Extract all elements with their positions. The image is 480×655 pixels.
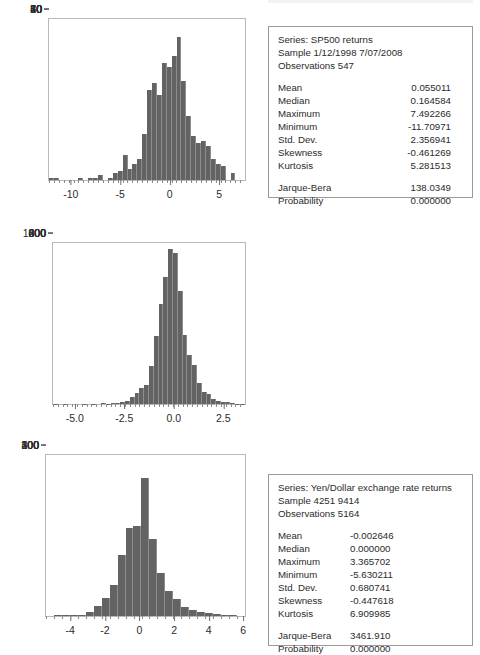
stats-row: Kurtosis5.281513	[278, 159, 463, 172]
x-axis-minor-tick	[216, 180, 217, 183]
x-axis-minor-tick	[176, 180, 177, 183]
stats-row-value: 2.356941	[350, 133, 463, 146]
stats-row-key: Skewness	[278, 146, 350, 159]
x-axis-tick-label: 6	[240, 616, 246, 636]
histogram-bar	[78, 615, 86, 616]
chart-sp500: 010203040506070 -10-505	[0, 8, 252, 223]
stats-row: Mean0.055011	[278, 81, 463, 94]
histogram-bar	[165, 591, 173, 616]
x-axis-minor-tick	[139, 404, 140, 407]
x-axis-minor-tick	[226, 404, 227, 407]
x-axis-minor-tick	[142, 616, 143, 619]
x-axis-minor-tick	[87, 404, 88, 407]
stats-row-value: -0.461269	[350, 146, 463, 159]
x-axis-minor-tick	[157, 616, 158, 619]
x-axis-minor-tick	[59, 180, 60, 183]
histogram-bar	[189, 610, 197, 616]
stats-observations-label: Observations 547	[278, 59, 463, 72]
x-axis-minor-tick	[58, 404, 59, 407]
bars-treasury-note	[46, 455, 245, 616]
stats-row: Jarque-Bera138.0349	[278, 181, 463, 194]
stats-row: Probability0.000000	[278, 194, 463, 207]
stats-spacer	[278, 72, 463, 81]
stats-row-value: 5.281513	[350, 159, 463, 172]
histogram-bar	[118, 555, 126, 616]
histogram-bar	[86, 612, 94, 617]
x-axis-minor-tick	[110, 616, 111, 619]
x-axis-minor-tick	[53, 404, 54, 407]
x-axis-minor-tick	[88, 180, 89, 183]
histogram-bar	[102, 598, 110, 616]
histogram-bar	[54, 615, 62, 616]
x-axis-minor-tick	[113, 180, 114, 183]
stats-spacer-2	[278, 172, 463, 181]
x-axis-minor-tick	[211, 180, 212, 183]
stats-row-value: 0.164584	[350, 94, 463, 107]
x-axis-minor-tick	[54, 616, 55, 619]
x-axis-minor-tick	[137, 180, 138, 183]
x-axis-minor-tick	[192, 404, 193, 407]
x-axis-minor-tick	[172, 180, 173, 183]
stats-row-key: Minimum	[278, 120, 350, 133]
plot-area-treasury-note: 0100200300400500 -4-20246	[45, 454, 246, 617]
x-axis-minor-tick	[201, 180, 202, 183]
x-axis-minor-tick	[126, 616, 127, 619]
x-axis-minor-tick	[216, 404, 217, 407]
histogram-bar	[213, 614, 221, 616]
plot-area-yen-dollar: 02004006008001000 -5.0-2.50.02.5	[52, 242, 246, 405]
stats-row-value: 138.0349	[350, 181, 463, 194]
stats-series-label: Series: SP500 returns	[278, 33, 463, 46]
x-axis-minor-tick	[132, 180, 133, 183]
x-axis-minor-tick	[237, 616, 238, 619]
x-axis-tick-label: 2.5	[216, 404, 231, 424]
x-axis-minor-tick	[74, 180, 75, 183]
x-axis-minor-tick	[149, 404, 150, 407]
x-axis-minor-tick	[67, 404, 68, 407]
histogram-bar	[173, 599, 181, 616]
x-axis-minor-tick	[127, 180, 128, 183]
stats-row: Median0.164584	[278, 94, 463, 107]
x-axis-tick-label: -10	[63, 180, 78, 200]
x-axis-minor-tick	[111, 404, 112, 407]
stats-box-sp500: Series: SP500 returns Sample 1/12/1998 7…	[268, 26, 473, 198]
x-axis-minor-tick	[77, 404, 78, 407]
x-axis-minor-tick	[225, 180, 226, 183]
stats-row: Skewness-0.461269	[278, 146, 463, 159]
y-axis-tick-label: 70	[30, 3, 49, 14]
histogram-bar	[110, 585, 118, 616]
stats-test-rows: Jarque-Bera138.0349Probability0.000000	[278, 181, 463, 207]
x-axis-minor-tick	[235, 404, 236, 407]
x-axis-minor-tick	[78, 616, 79, 619]
histogram-bar	[221, 615, 229, 616]
stats-row-value: 0.055011	[350, 81, 463, 94]
histogram-bar	[229, 615, 237, 616]
x-axis-minor-tick	[94, 616, 95, 619]
stats-row-value: 0.000000	[350, 194, 463, 207]
histogram-bar	[149, 539, 157, 616]
x-axis-minor-tick	[115, 404, 116, 407]
stats-sample-label: Sample 1/12/1998 7/07/2008	[278, 46, 463, 59]
x-axis-minor-tick	[191, 180, 192, 183]
x-axis-minor-tick	[159, 404, 160, 407]
x-axis-minor-tick	[62, 616, 63, 619]
x-axis-minor-tick	[197, 404, 198, 407]
x-axis-minor-tick	[98, 180, 99, 183]
histogram-bar	[231, 173, 236, 180]
x-axis-minor-tick	[181, 616, 182, 619]
x-axis-minor-tick	[106, 404, 107, 407]
stats-row-key: Probability	[278, 194, 350, 207]
x-axis-minor-tick	[213, 616, 214, 619]
x-axis-minor-tick	[93, 180, 94, 183]
x-axis-minor-tick	[118, 180, 119, 183]
x-axis-minor-tick	[46, 616, 47, 619]
x-axis-minor-tick	[134, 616, 135, 619]
x-axis-minor-tick	[135, 404, 136, 407]
x-axis-minor-tick	[120, 404, 121, 407]
x-axis-minor-tick	[144, 404, 145, 407]
x-axis-minor-tick	[72, 404, 73, 407]
x-axis-minor-tick	[154, 404, 155, 407]
x-axis-minor-tick	[183, 404, 184, 407]
stats-row-key: Median	[278, 94, 350, 107]
x-axis-minor-tick	[162, 180, 163, 183]
y-axis-tick-label: 500	[21, 439, 46, 450]
